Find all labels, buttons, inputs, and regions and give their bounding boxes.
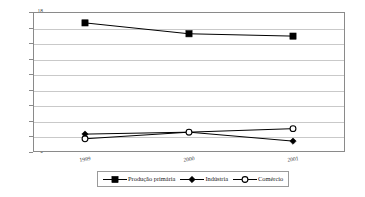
x-tick-label: 1999 [65, 153, 106, 166]
data-point-filled-square-marker [82, 20, 88, 26]
line-chart: Milhões de Reais (R$) 024681012141618 19… [0, 0, 365, 197]
data-point-filled-square-marker [186, 31, 192, 37]
data-series-layer [33, 12, 345, 152]
legend-label: Comércio [258, 175, 283, 183]
legend-marker-open-circle [233, 175, 257, 184]
y-tick-mark [29, 152, 33, 153]
legend-item[interactable]: Comércio [233, 175, 283, 184]
legend-item[interactable]: Indústria [180, 175, 228, 184]
legend-item[interactable]: Produção primária [103, 175, 175, 184]
legend-label: Produção primária [128, 175, 175, 183]
legend-marker-filled-square [103, 175, 127, 184]
legend-marker-filled-diamond [180, 175, 204, 184]
legend-label: Indústria [205, 175, 228, 183]
x-tick-label: 2000 [169, 153, 210, 166]
x-tick-label: 2001 [273, 153, 314, 166]
data-point-open-circle-marker [290, 126, 296, 132]
data-point-open-circle-marker [82, 136, 88, 142]
series-produ-o-prim-ria [82, 20, 296, 39]
chart-legend: Produção primáriaIndústriaComércio [97, 171, 289, 187]
data-point-filled-square-marker [290, 33, 296, 39]
data-point-open-circle-marker [242, 176, 248, 182]
data-point-open-circle-marker [186, 129, 192, 135]
data-point-filled-square-marker [112, 176, 118, 182]
data-point-filled-diamond-marker [290, 138, 296, 144]
data-point-filled-diamond-marker [189, 176, 195, 182]
